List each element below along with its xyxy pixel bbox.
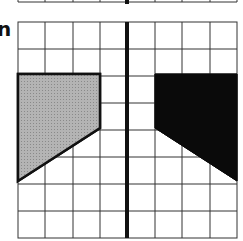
reflected-shape-fill [155,74,237,181]
reflection-grid-diagram [0,0,243,241]
top-grid-strip [18,0,237,4]
original-shape-outline [18,74,100,181]
mirror-line [125,22,129,238]
